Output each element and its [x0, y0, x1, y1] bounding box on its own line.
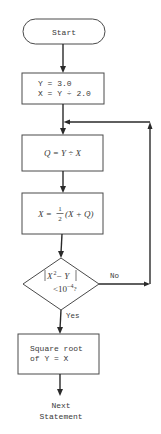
init-node: Y = 3.0 X = Y ÷ 2.0	[22, 73, 104, 104]
arrow-result-to-next	[57, 374, 63, 396]
next-line-1: Next	[51, 401, 70, 410]
next-statement: Next Statement	[39, 401, 82, 421]
arrow-yes: Yes	[57, 310, 80, 334]
decision-rest: − Y	[56, 271, 70, 281]
arrow-init-to-quotient	[60, 104, 66, 135]
update-fraction-denominator: 2	[58, 215, 62, 223]
decision-node: X 2 − Y <10 −4 ?	[23, 258, 99, 310]
init-line-1: Y = 3.0	[38, 79, 72, 88]
arrowhead-icon	[148, 122, 153, 129]
arrowhead-icon	[57, 327, 63, 334]
result-line-2: of Y = X	[30, 354, 69, 363]
decision-threshold-exponent: −4	[67, 283, 73, 289]
decision-threshold-prefix: <10	[53, 284, 68, 294]
update-lhs: X =	[37, 209, 52, 219]
arrowhead-icon	[60, 66, 66, 73]
flowchart: Start Y = 3.0 X = Y ÷ 2.0 Q = Y ÷ X X = …	[0, 0, 161, 434]
init-line-2: X = Y ÷ 2.0	[38, 89, 91, 98]
arrow-update-to-decision	[58, 234, 64, 258]
result-node: Square root of Y = X	[18, 334, 99, 374]
decision-base: X	[46, 271, 53, 281]
start-label: Start	[52, 28, 76, 37]
arrowhead-icon	[64, 120, 71, 125]
arrowhead-icon	[57, 389, 63, 396]
result-line-1: Square root	[30, 344, 83, 353]
quotient-label: Q = Y ÷ X	[44, 148, 82, 158]
no-label: No	[110, 272, 120, 280]
start-node: Start	[23, 19, 105, 44]
arrow-start-to-init	[60, 44, 66, 73]
quotient-node: Q = Y ÷ X	[22, 135, 103, 171]
next-line-2: Statement	[39, 412, 82, 421]
decision-question-mark: ?	[74, 285, 77, 293]
arrowhead-icon	[60, 186, 66, 193]
update-fraction-numerator: 1	[58, 205, 62, 213]
update-rhs: (X + Q)	[65, 209, 94, 219]
arrowhead-icon	[58, 251, 64, 258]
update-node: X = 1 2 (X + Q)	[22, 193, 103, 234]
yes-label: Yes	[66, 312, 80, 320]
arrow-quotient-to-update	[60, 171, 66, 193]
arrowhead-icon	[60, 128, 66, 135]
arrowhead-icon	[144, 282, 150, 287]
